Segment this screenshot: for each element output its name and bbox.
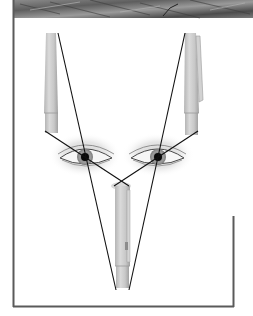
bottom-pen (115, 186, 130, 288)
left-pen (44, 33, 58, 133)
header-stone-band (13, 0, 253, 18)
right-pen (184, 33, 203, 135)
eye-convergence-diagram (0, 0, 253, 316)
